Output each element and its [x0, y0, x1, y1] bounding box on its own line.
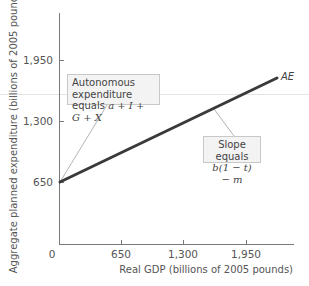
aggregate-expenditure-chart: 1,950 1,300 650 0 650 1,300 1,950 Aggreg…	[0, 0, 309, 286]
annotation-formula: b(1 − t) − m	[208, 162, 256, 185]
y-tick-label-1950: 1,950	[13, 55, 53, 66]
y-axis-title: Aggregate planned expenditure (billions …	[9, 0, 19, 273]
chart-canvas	[0, 0, 309, 286]
x-tick-label-1300: 1,300	[161, 249, 205, 260]
x-axis-title: Real GDP (billions of 2005 pounds)	[119, 265, 293, 275]
annotation-line: equals a + I + G + X	[72, 100, 155, 123]
annotation-line: Slope equals	[208, 139, 256, 162]
x-tick-label-1950: 1,950	[224, 249, 268, 260]
annotation-text: equals	[72, 100, 108, 111]
annotation-line: expenditure	[72, 89, 155, 101]
y-tick-label-650: 650	[13, 177, 53, 188]
ae-series-label: AE	[281, 72, 294, 82]
y-tick-label-1300: 1,300	[13, 116, 53, 127]
x-tick-label-0: 0	[30, 249, 74, 260]
autonomous-expenditure-annotation: Autonomous expenditure equals a + I + G …	[67, 74, 160, 105]
x-tick-label-650: 650	[99, 249, 143, 260]
annotation-line: Autonomous	[72, 77, 155, 89]
slope-annotation: Slope equals b(1 − t) − m	[203, 136, 261, 163]
slope-pointer-line	[214, 109, 234, 136]
